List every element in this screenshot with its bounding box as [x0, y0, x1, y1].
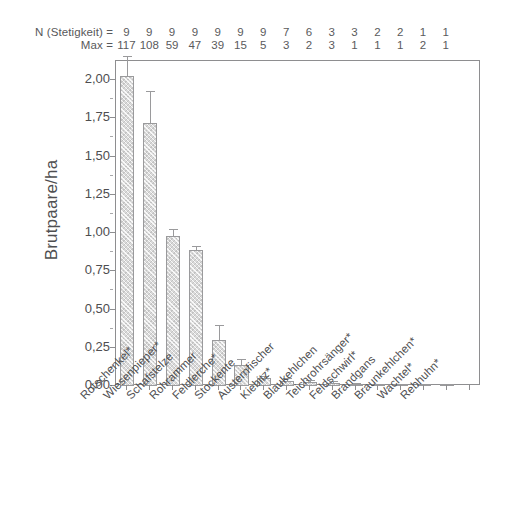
- error-bar: [173, 230, 174, 236]
- chart-figure: N (Stetigkeit) = 999999976332211 Max = 1…: [0, 0, 507, 510]
- y-axis-title: Brutpaare/ha: [42, 100, 62, 320]
- stat-row-max-label: Max =: [0, 39, 113, 52]
- stat-row-n-label: N (Stetigkeit) =: [0, 26, 113, 39]
- stat-row-max: Max = 11710859473915532311121: [0, 39, 507, 52]
- y-tick-mark-minor: [110, 213, 113, 214]
- error-bar: [127, 57, 128, 75]
- stat-row-n-values: 999999976332211: [113, 26, 485, 39]
- y-tick-mark-minor: [110, 251, 113, 252]
- y-tick-mark-minor: [110, 175, 113, 176]
- stat-cell: 1: [429, 26, 463, 39]
- stat-row-max-values: 11710859473915532311121: [113, 39, 485, 52]
- y-tick-label: 0,25: [70, 340, 110, 353]
- y-tick-label: 2,00: [70, 72, 110, 85]
- y-tick-mark-minor: [110, 328, 113, 329]
- error-bar-cap: [192, 246, 201, 247]
- error-bar-cap: [169, 229, 178, 230]
- y-tick-label: 0,75: [70, 263, 110, 276]
- error-bar: [196, 247, 197, 250]
- error-bar-cap: [146, 91, 155, 92]
- bar: [120, 76, 134, 386]
- error-bar-cap: [215, 325, 224, 326]
- y-axis-ticks: 0,000,250,500,751,001,251,501,752,00: [66, 60, 110, 385]
- y-tick-mark-minor: [110, 136, 113, 137]
- y-tick-mark-minor: [110, 98, 113, 99]
- y-tick-label: 1,00: [70, 225, 110, 238]
- bars-container: [116, 61, 481, 386]
- error-bar: [150, 92, 151, 123]
- y-tick-label: 0,50: [70, 302, 110, 315]
- plot-area: [115, 60, 480, 385]
- x-axis-labels: Rotschenkel*Wiesenpieper*SchafstelzeRohr…: [0, 385, 507, 510]
- error-bar-cap: [237, 359, 246, 360]
- y-tick-label: 1,25: [70, 187, 110, 200]
- error-bar: [219, 326, 220, 340]
- y-tick-label: 1,75: [70, 110, 110, 123]
- stat-row-n: N (Stetigkeit) = 999999976332211: [0, 26, 507, 39]
- y-tick-label: 1,50: [70, 149, 110, 162]
- stat-cell: 1: [429, 39, 463, 52]
- y-tick-mark-minor: [110, 289, 113, 290]
- error-bar-cap: [123, 56, 132, 57]
